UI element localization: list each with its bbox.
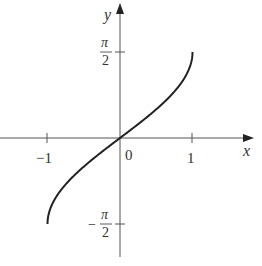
x-tick-label-pos1: 1 xyxy=(187,150,195,166)
arcsin-plot: y x 0 −1 1 π 2 − π 2 xyxy=(0,0,262,266)
two-denominator: 2 xyxy=(102,225,109,240)
x-tick-label-neg1: −1 xyxy=(36,150,52,166)
y-axis-arrow-icon xyxy=(116,3,124,14)
pi-numerator: π xyxy=(101,35,109,50)
y-axis-label: y xyxy=(102,6,112,24)
y-tick-label-pi-over-2: π 2 xyxy=(100,35,112,68)
x-axis-label: x xyxy=(242,142,250,159)
minus-sign: − xyxy=(88,217,96,232)
two-denominator: 2 xyxy=(102,53,109,68)
pi-numerator: π xyxy=(101,207,109,222)
origin-label: 0 xyxy=(125,147,133,163)
y-tick-label-neg-pi-over-2: − π 2 xyxy=(88,207,112,240)
x-axis-arrow-icon xyxy=(243,134,254,142)
